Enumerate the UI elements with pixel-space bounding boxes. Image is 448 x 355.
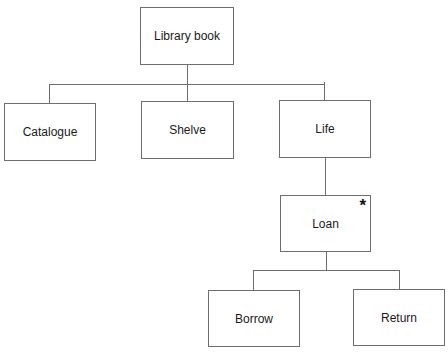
connector-to-borrow — [253, 270, 254, 290]
connector-life-to-loan — [325, 158, 326, 195]
node-label: Return — [381, 311, 417, 325]
node-label: Catalogue — [23, 125, 78, 139]
node-library-book: Library book — [140, 7, 234, 65]
node-label: Life — [315, 122, 334, 136]
connector-to-catalogue — [49, 84, 50, 103]
node-label: Library book — [154, 29, 220, 43]
connector-loan-down — [326, 252, 327, 270]
node-shelve: Shelve — [141, 101, 234, 159]
connector-level3-bar — [253, 270, 400, 271]
node-label: Loan — [312, 217, 339, 231]
node-borrow: Borrow — [208, 290, 300, 347]
node-life: Life — [279, 100, 371, 158]
connector-to-life — [324, 82, 325, 100]
node-label: Shelve — [169, 123, 206, 137]
structure-diagram: Library book Catalogue Shelve Life Loan … — [0, 0, 448, 355]
iteration-star-icon: * — [359, 197, 366, 214]
connector-to-return — [399, 270, 400, 289]
connector-to-shelve — [187, 84, 188, 101]
node-label: Borrow — [235, 312, 273, 326]
node-return: Return — [353, 289, 445, 346]
node-loan: Loan * — [280, 195, 371, 252]
connector-root-down — [187, 65, 188, 84]
node-catalogue: Catalogue — [4, 103, 96, 161]
